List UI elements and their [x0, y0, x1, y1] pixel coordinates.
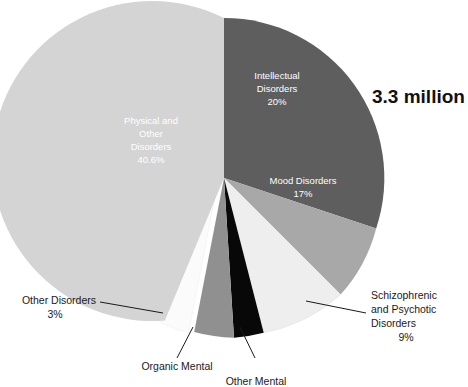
label-mood-disorders-line1: Mood Disorders	[269, 175, 336, 186]
label-other-disorders-value: 3%	[47, 308, 62, 320]
label-schizophrenic-line3: Disorders	[371, 317, 416, 329]
pie-chart-svg: Intellectual Disorders 20% Mood Disorder…	[0, 0, 468, 387]
label-other-mental: Other Mental	[226, 375, 287, 387]
label-other-disorders-line1: Other Disorders	[22, 294, 96, 306]
label-intellectual-disorders-line2: Disorders	[257, 83, 298, 94]
label-intellectual-disorders-value: 20%	[267, 96, 287, 107]
pie-chart-figure: Intellectual Disorders 20% Mood Disorder…	[0, 0, 468, 387]
pie-slices	[0, 1, 384, 338]
label-physical-and-other-disorders-line2: Other	[139, 128, 163, 139]
label-schizophrenic-line1: Schizophrenic	[371, 289, 437, 301]
label-schizophrenic-line2: and Psychotic	[371, 303, 436, 315]
label-mood-disorders-value: 17%	[293, 188, 313, 199]
total-annotation: 3.3 million	[372, 86, 465, 107]
label-physical-and-other-disorders-value: 40.6%	[138, 154, 165, 165]
label-physical-and-other-disorders-line1: Physical and	[124, 115, 178, 126]
label-organic-mental: Organic Mental	[141, 360, 212, 372]
label-physical-and-other-disorders-line3: Disorders	[131, 141, 172, 152]
label-schizophrenic-value: 9%	[398, 331, 413, 343]
label-intellectual-disorders-line1: Intellectual	[254, 70, 299, 81]
